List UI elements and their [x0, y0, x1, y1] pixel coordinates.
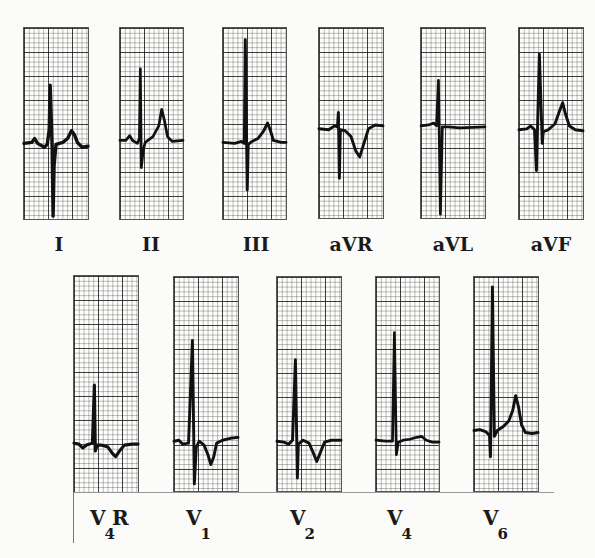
ecg-strip-lead-aVL — [420, 27, 486, 219]
ecg-trace-lead-V4R — [74, 276, 138, 492]
ecg-trace-lead-V6 — [474, 277, 538, 491]
ecg-trace-lead-V4 — [376, 277, 439, 491]
lead-label-aVF: aVF — [511, 235, 591, 254]
lead-label-aVR: aVR — [311, 235, 391, 254]
lead-label-I: I — [19, 235, 99, 254]
ecg-strip-lead-V4R — [73, 275, 139, 493]
ecg-strip-lead-III — [222, 27, 287, 220]
ecg-strip-lead-aVF — [518, 27, 584, 220]
ecg-trace-lead-V2 — [277, 277, 341, 491]
ecg-trace-lead-V1 — [174, 277, 238, 491]
ecg-strip-lead-V4 — [375, 276, 440, 492]
ecg-strip-lead-aVR — [318, 27, 384, 219]
ecg-trace-lead-aVR — [319, 28, 383, 218]
ecg-trace-lead-aVL — [421, 28, 485, 218]
lead-label-III: III — [216, 235, 296, 254]
ecg-trace-lead-II — [120, 28, 183, 219]
label-frame-line — [73, 492, 554, 543]
ecg-strip-lead-V1 — [173, 276, 239, 492]
lead-label-aVL: aVL — [413, 235, 493, 254]
ecg-strip-lead-II — [119, 27, 184, 220]
ecg-strip-lead-I — [23, 27, 89, 220]
lead-label-II: II — [111, 235, 191, 254]
ecg-trace-lead-III — [223, 28, 286, 219]
ecg-strip-lead-V6 — [473, 276, 539, 492]
ecg-trace-lead-aVF — [519, 28, 583, 219]
ecg-trace-lead-I — [24, 28, 88, 219]
ecg-strip-lead-V2 — [276, 276, 342, 492]
